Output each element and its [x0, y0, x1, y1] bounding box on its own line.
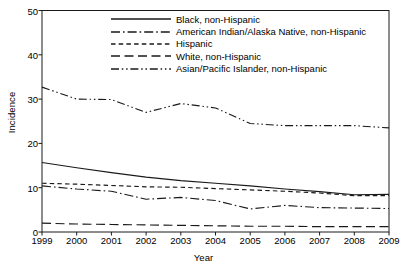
x-tick-label: 2002	[136, 235, 157, 246]
legend-item-label: Black, non-Hispanic	[172, 14, 260, 25]
legend-item-label: White, non-Hispanic	[172, 51, 261, 62]
legend-line-sample	[110, 13, 172, 25]
incidence-by-race-line-chart: Incidence 01020304050 199920002001200220…	[0, 0, 407, 271]
x-tick-label: 2000	[66, 235, 87, 246]
legend-item: White, non-Hispanic	[110, 50, 366, 62]
legend-item-label: American Indian/Alaska Native, non-Hispa…	[172, 26, 366, 37]
x-axis-title: Year	[0, 252, 407, 263]
legend-item: American Indian/Alaska Native, non-Hispa…	[110, 25, 366, 37]
x-axis-tick-labels: 1999200020012002200320042005200620072008…	[0, 235, 407, 251]
x-tick-label: 2009	[378, 235, 399, 246]
legend-line-sample	[110, 63, 172, 75]
x-tick-label: 2008	[344, 235, 365, 246]
series-line-3	[42, 223, 389, 227]
legend-item: Asian/Pacific Islander, non-Hispanic	[110, 63, 366, 75]
x-tick-label: 2001	[101, 235, 122, 246]
series-line-1	[42, 186, 389, 209]
x-tick-label: 2005	[240, 235, 261, 246]
legend-line-sample	[110, 26, 172, 38]
series-line-4	[42, 87, 389, 128]
x-tick-label: 2006	[274, 235, 295, 246]
legend-item-label: Hispanic	[172, 38, 212, 49]
x-tick-label: 2007	[309, 235, 330, 246]
legend-item: Black, non-Hispanic	[110, 13, 366, 25]
legend: Black, non-HispanicAmerican Indian/Alask…	[110, 13, 366, 75]
legend-line-sample	[110, 38, 172, 50]
legend-item-label: Asian/Pacific Islander, non-Hispanic	[172, 63, 327, 74]
x-tick-label: 2003	[170, 235, 191, 246]
x-tick-label: 2004	[205, 235, 226, 246]
series-line-2	[42, 183, 389, 195]
legend-item: Hispanic	[110, 38, 366, 50]
legend-line-sample	[110, 50, 172, 62]
x-tick-label: 1999	[31, 235, 52, 246]
